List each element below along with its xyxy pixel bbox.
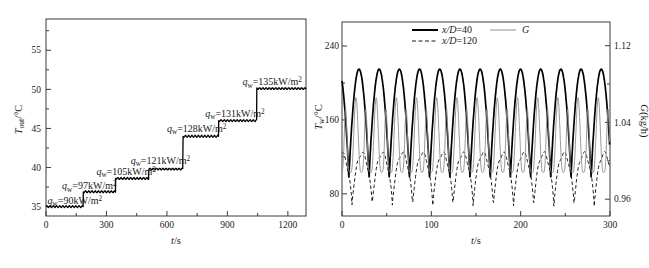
y-tick-label: 80 xyxy=(330,189,340,199)
y-axis-title: Tout/°C xyxy=(13,105,26,135)
y-tick-label: 160 xyxy=(325,115,340,125)
y-tick-label: 40 xyxy=(32,163,42,173)
legend-label: x/D=40 xyxy=(441,24,472,35)
right-chart-svg: 0100200300801602400.961.041.12t/sTw/°CG(… xyxy=(324,0,649,268)
left-chart-figure: 030060090012003540455055t/sTout/°Cqw=90k… xyxy=(0,0,324,268)
heat-flux-annotation: qw=121kW/m2 xyxy=(131,155,191,168)
x-tick-label: 1200 xyxy=(278,220,297,230)
y-tick-label: 50 xyxy=(32,85,42,95)
x-axis-title: t/s xyxy=(471,235,481,246)
plot-frame xyxy=(342,22,610,216)
legend-label: x/D=120 xyxy=(441,35,477,46)
x-tick-label: 0 xyxy=(340,220,345,230)
heat-flux-annotation: qw=128kW/m2 xyxy=(167,123,227,136)
right-tick-label: 1.12 xyxy=(614,41,631,51)
right-chart-figure: 0100200300801602400.961.041.12t/sTw/°CG(… xyxy=(324,0,649,268)
legend-label: G xyxy=(522,24,529,35)
x-tick-label: 100 xyxy=(424,220,439,230)
x-tick-label: 600 xyxy=(160,220,175,230)
series-line-0-xD40 xyxy=(342,69,610,177)
right-tick-label: 1.04 xyxy=(614,118,631,128)
x-tick-label: 0 xyxy=(44,220,49,230)
x-tick-label: 300 xyxy=(603,220,618,230)
x-axis-title: t/s xyxy=(171,235,181,246)
left-chart-svg: 030060090012003540455055t/sTout/°Cqw=90k… xyxy=(0,0,324,268)
x-tick-label: 300 xyxy=(99,220,114,230)
y-tick-label: 240 xyxy=(325,41,340,51)
y-tick-label: 45 xyxy=(32,124,42,134)
right-tick-label: 0.96 xyxy=(614,194,631,204)
x-tick-label: 200 xyxy=(514,220,529,230)
y-tick-label: 35 xyxy=(32,202,42,212)
y-axis-title-right: G(kg/h) xyxy=(638,104,649,138)
y-tick-label: 55 xyxy=(32,45,42,55)
x-tick-label: 900 xyxy=(220,220,235,230)
